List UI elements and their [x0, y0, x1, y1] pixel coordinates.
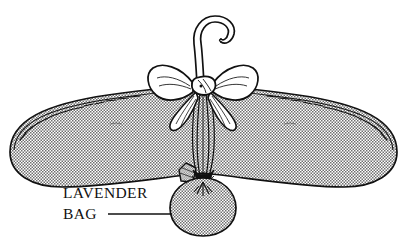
bow-loop-left	[148, 65, 193, 100]
bow-knot	[192, 76, 216, 95]
label-lavender: LAVENDER	[63, 184, 148, 201]
hanger-illustration: LAVENDER BAG	[0, 0, 407, 240]
padded-hanger-body	[10, 85, 397, 187]
lavender-sachet-bag	[170, 178, 236, 236]
illustration-canvas: LAVENDER BAG	[0, 0, 407, 240]
bow-loop-right	[213, 65, 258, 100]
label-bag: BAG	[63, 205, 97, 222]
